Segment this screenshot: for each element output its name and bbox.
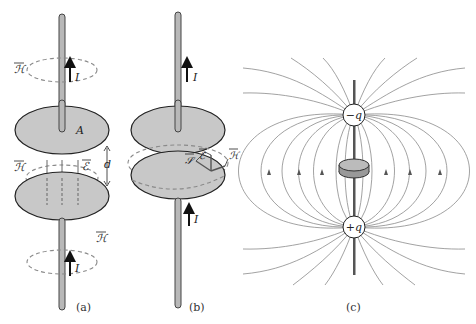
h-field-label: ℋ <box>229 150 241 161</box>
current-label-top: I <box>74 71 80 84</box>
current-label-top: I <box>192 71 198 84</box>
current-label-bottom: I <box>193 213 199 226</box>
panel-b: I 𝒮 ℰ ℋ I (b) <box>128 12 241 314</box>
current-label-bottom: I <box>74 262 80 275</box>
h-field-label-middle: ℋ <box>14 161 27 174</box>
negative-charge: −q <box>343 104 365 126</box>
e-field-label: ℰ <box>199 150 206 161</box>
panel-c: −q +q (c) <box>239 58 470 314</box>
plate-area-label: A <box>75 124 84 137</box>
dipole-capacitor <box>339 159 369 178</box>
caption-c: (c) <box>346 301 361 314</box>
h-field-label-bottom: ℋ <box>96 232 109 245</box>
figure-canvas: I ℋ A ℋ ℰ d I ℋ (a) <box>0 0 476 324</box>
wire-bottom <box>175 198 181 308</box>
e-field-label: ℰ <box>82 160 90 173</box>
negative-charge-label: −q <box>346 109 362 122</box>
positive-charge-label: +q <box>346 221 362 234</box>
positive-charge: +q <box>343 216 365 238</box>
h-field-label-top: ℋ <box>14 63 27 76</box>
gap-label: d <box>104 158 111 171</box>
panel-a: I ℋ A ℋ ℰ d I ℋ (a) <box>14 14 111 314</box>
caption-b: (b) <box>189 301 205 314</box>
caption-a: (a) <box>76 301 91 314</box>
wire-bottom <box>59 218 65 310</box>
